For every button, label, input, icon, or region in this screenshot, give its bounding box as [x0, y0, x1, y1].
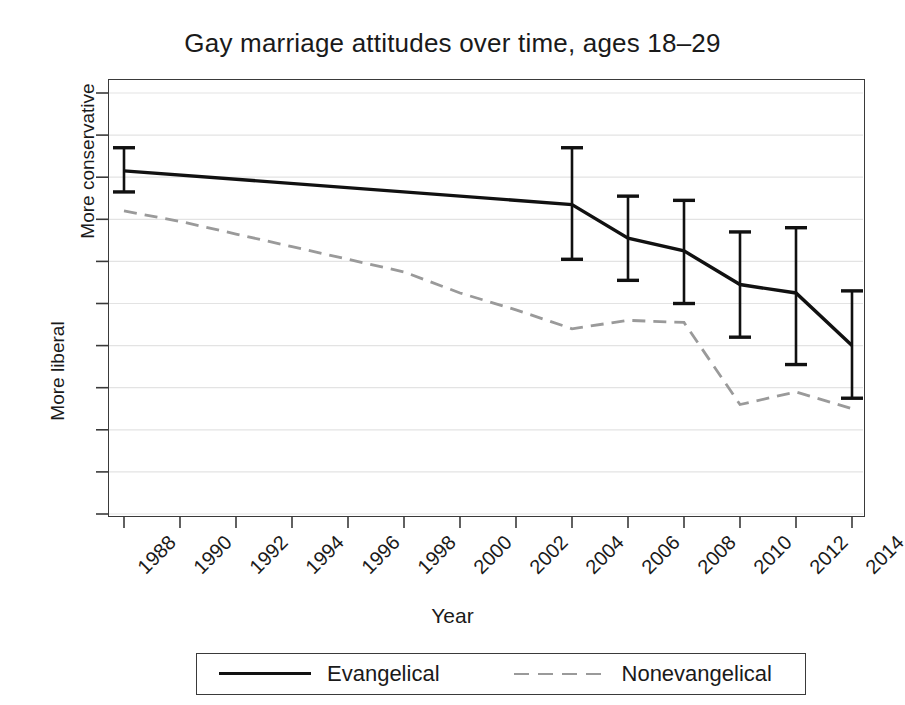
error-bar — [785, 228, 807, 365]
x-tick-label: 1988 — [133, 531, 181, 579]
series-line-nonevangelical — [124, 211, 852, 409]
x-tick-label: 1992 — [245, 531, 293, 579]
x-tick-label: 2006 — [637, 531, 685, 579]
x-tick-label: 1990 — [189, 531, 237, 579]
legend-label-nonevangelical: Nonevangelical — [622, 661, 772, 687]
x-tick-label: 2010 — [749, 531, 797, 579]
error-bar — [841, 291, 863, 398]
plot-area — [108, 79, 865, 517]
series-line-evangelical — [124, 171, 852, 346]
legend-label-evangelical: Evangelical — [327, 661, 440, 687]
chart-figure: Gay marriage attitudes over time, ages 1… — [0, 0, 905, 705]
x-tick-label: 2002 — [525, 531, 573, 579]
legend-entry-evangelical: Evangelical — [197, 654, 440, 694]
error-bar — [673, 200, 695, 303]
plot-canvas — [109, 80, 863, 515]
x-tick-label: 2012 — [805, 531, 853, 579]
y-axis-label-top: More conservative — [77, 41, 99, 281]
chart-title: Gay marriage attitudes over time, ages 1… — [0, 28, 905, 59]
chart-legend: Evangelical Nonevangelical — [196, 653, 806, 695]
x-axis-label: Year — [0, 604, 905, 628]
x-tick-label: 2000 — [469, 531, 517, 579]
x-tick-label: 1996 — [357, 531, 405, 579]
x-tick-label: 2014 — [861, 531, 905, 579]
x-tick-label: 2004 — [581, 531, 629, 579]
y-axis-label-bottom: More liberal — [47, 271, 69, 471]
solid-line-icon — [219, 667, 311, 681]
x-tick-label: 1994 — [301, 531, 349, 579]
dashed-line-icon — [514, 667, 606, 681]
x-tick-label: 1998 — [413, 531, 461, 579]
legend-entry-nonevangelical: Nonevangelical — [492, 654, 772, 694]
x-tick-label: 2008 — [693, 531, 741, 579]
